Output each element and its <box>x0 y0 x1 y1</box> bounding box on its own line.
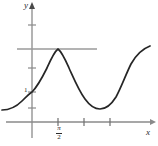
curve-path <box>2 46 150 110</box>
x-tick-label-pi-over-2: π 2 <box>53 125 65 141</box>
x-axis-arrow <box>150 119 156 125</box>
fraction-denominator: 2 <box>56 134 62 141</box>
y-axis <box>28 2 36 138</box>
y-tick-label-1: 1 <box>24 87 28 94</box>
y-axis-label: y <box>24 1 28 10</box>
x-axis <box>6 118 156 126</box>
graph-canvas <box>0 0 158 146</box>
fraction-pi-over-2: π 2 <box>56 125 62 141</box>
fraction-numerator: π <box>56 125 62 132</box>
x-axis-label: x <box>146 128 150 137</box>
y-axis-arrow <box>29 2 35 9</box>
graph-figure: y x 1 π 2 <box>0 0 158 146</box>
